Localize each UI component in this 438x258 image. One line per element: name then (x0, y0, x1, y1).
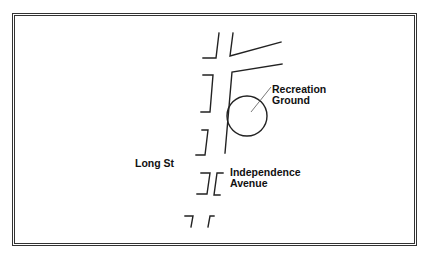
street-segment (185, 216, 193, 227)
recreation-ground-circle (227, 96, 267, 136)
street-segment (208, 216, 214, 227)
street-segment (196, 130, 208, 155)
label-independence-avenue: Independence Avenue (230, 167, 301, 189)
street-segment (214, 173, 223, 195)
street-segment (203, 33, 219, 58)
street-segment (197, 173, 210, 194)
label-recreation-ground: Recreation Ground (272, 84, 326, 106)
street-segment (201, 75, 213, 112)
label-long-st: Long St (135, 158, 174, 169)
leader-line (251, 87, 271, 112)
street-segment (230, 33, 281, 56)
street-map (0, 0, 438, 258)
